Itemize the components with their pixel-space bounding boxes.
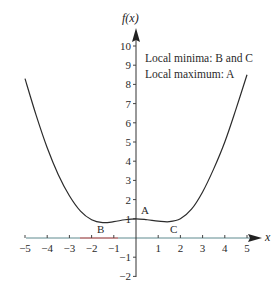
point-label-a: A [141,204,149,216]
y-axis-title: f(x) [122,11,139,25]
point-label-c: C [170,223,177,235]
y-axis: −2−112345678910 f(x) [119,11,140,282]
y-tick-label: 5 [126,136,132,148]
x-axis: −5−4−3−2−112345 x [19,230,271,254]
x-tick-label: −5 [19,242,31,254]
y-tick-label: 7 [126,98,132,110]
x-axis-title: x [264,230,271,244]
y-tick-label: 10 [120,40,132,52]
y-axis-arrow-icon [132,28,140,42]
annotation-maximum: Local maximum: A [145,68,235,80]
y-tick-label: 9 [126,59,132,71]
y-tick-label: 8 [126,78,132,90]
y-tick-label: −1 [119,251,131,263]
annotation-box: Local minima: B and C Local maximum: A [145,52,253,80]
x-tick-label: 2 [178,242,184,254]
y-tick-label: 2 [126,194,132,206]
y-tick-label: 4 [126,155,132,167]
x-tick-label: −1 [108,242,120,254]
x-tick-label: 5 [244,242,250,254]
x-tick-label: −3 [64,242,76,254]
function-graph: −5−4−3−2−112345 x −2−112345678910 f(x) A… [0,0,276,294]
x-axis-arrow-icon [248,234,262,242]
x-tick-label: 1 [155,242,161,254]
annotation-minima: Local minima: B and C [145,52,253,64]
y-tick-label: 6 [126,117,132,129]
y-tick-label: 3 [126,174,132,186]
point-label-b: B [97,223,104,235]
x-tick-label: 3 [200,242,206,254]
y-tick-label: −2 [119,270,131,282]
x-tick-label: −4 [41,242,53,254]
x-tick-label: 4 [222,242,228,254]
x-tick-label: −2 [86,242,98,254]
